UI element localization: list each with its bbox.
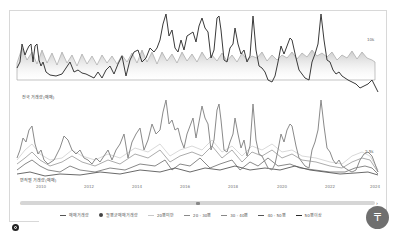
line-marker-icon — [60, 215, 66, 216]
x-tick-2016: 2016 — [180, 184, 190, 189]
x-tick-2014: 2014 — [132, 184, 142, 189]
scroll-to-top-button[interactable]: ₸ — [366, 206, 389, 229]
x-tick-2022: 2022 — [325, 184, 335, 189]
line-marker-icon — [148, 215, 154, 216]
logo-icon[interactable] — [12, 224, 19, 231]
series-20-30 — [17, 100, 378, 172]
line-marker-icon — [296, 215, 302, 216]
legend-item-30-40[interactable]: 30 - 40평 — [221, 212, 248, 218]
x-tick-2018: 2018 — [228, 184, 238, 189]
line-marker-icon — [258, 215, 264, 216]
chart-legend: 매매거래량 월평균매매거래량 20평미만 20 - 30평 30 - 40평 4… — [60, 211, 322, 219]
series-30-40 — [17, 146, 378, 172]
series-under-20 — [17, 140, 378, 170]
top-y-axis-label: 10k — [367, 37, 374, 42]
bottom-panel-title: 면적별 거래량(매매) — [20, 177, 56, 183]
scrollbar-handle[interactable] — [196, 202, 200, 205]
legend-item-20-30[interactable]: 20 - 30평 — [184, 212, 211, 218]
legend-item-50-plus[interactable]: 50평이상 — [296, 212, 322, 218]
dot-marker-icon — [99, 213, 103, 217]
top-panel-title: 전국 거래량(매매) — [22, 94, 54, 100]
x-tick-2010: 2010 — [36, 184, 46, 189]
bottom-y-axis-label: 2.5k — [365, 149, 374, 154]
line-marker-icon — [221, 215, 227, 216]
x-tick-2020: 2020 — [277, 184, 287, 189]
time-range-scrollbar[interactable] — [20, 201, 375, 205]
legend-item-monthly-average[interactable]: 월평균매매거래량 — [99, 212, 138, 218]
x-tick-2012: 2012 — [84, 184, 94, 189]
x-tick-2024: 2024 — [370, 184, 380, 189]
scroll-to-top-icon: ₸ — [374, 211, 381, 224]
line-marker-icon — [184, 215, 190, 216]
legend-item-trade-volume[interactable]: 매매거래량 — [60, 212, 89, 218]
legend-item-40-50[interactable]: 40 - 50평 — [258, 212, 285, 218]
legend-item-under-20[interactable]: 20평미만 — [148, 212, 174, 218]
